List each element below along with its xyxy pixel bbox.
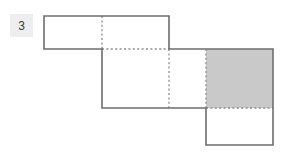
face-top-left-a	[44, 16, 102, 49]
face-fill-group	[44, 16, 273, 145]
face-middle-a	[102, 49, 169, 108]
face-middle-c-shaded	[206, 49, 273, 108]
face-top-left-b	[102, 16, 169, 49]
figure-canvas: 3	[0, 0, 288, 159]
face-bottom	[206, 108, 273, 145]
cube-net-diagram	[0, 0, 288, 159]
face-middle-b	[169, 49, 206, 108]
